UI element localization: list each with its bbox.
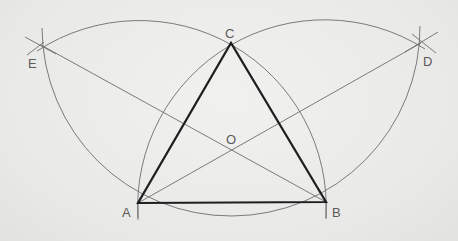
label-c: C [225,27,234,40]
label-o: O [226,133,236,146]
tick-arc-e [25,37,56,54]
arc-centered-b [138,20,425,218]
arc-centered-a [37,21,326,218]
diagram-canvas: C E D O A B [0,0,458,241]
label-b: B [332,206,341,219]
label-a: A [122,206,131,219]
arc-centered-c [42,26,420,216]
triangle-abc [138,43,326,203]
label-e: E [28,57,37,70]
label-d: D [423,55,432,68]
